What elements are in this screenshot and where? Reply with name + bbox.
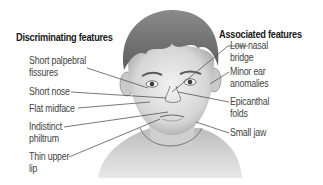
label-line: Flat midface (29, 103, 75, 115)
label-line: bridge (230, 52, 268, 64)
discriminating-features-heading: Discriminating features (16, 31, 113, 43)
label-indistinct-philtrum: Indistinct philtrum (29, 121, 62, 145)
label-line: Low nasal (230, 40, 268, 52)
label-line: lip (29, 163, 69, 175)
label-line: Thin upper (29, 151, 69, 163)
label-short-nose: Short nose (29, 86, 70, 98)
label-minor-ear-anomalies: Minor ear anomalies (230, 66, 269, 90)
label-line: Indistinct (29, 121, 62, 133)
label-short-palpebral-fissures: Short palpebral fissures (29, 55, 86, 79)
label-line: Small jaw (230, 127, 266, 139)
label-thin-upper-lip: Thin upper lip (29, 151, 69, 175)
label-low-nasal-bridge: Low nasal bridge (230, 40, 268, 64)
label-line: Short nose (29, 86, 70, 98)
label-epicanthal-folds: Epicanthal folds (230, 96, 269, 120)
face-shape (128, 45, 214, 135)
label-line: Epicanthal (230, 96, 269, 108)
label-line: philtrum (29, 133, 62, 145)
label-line: Minor ear (230, 66, 269, 78)
label-line: folds (230, 108, 269, 120)
label-line: Short palpebral (29, 55, 86, 67)
associated-features-heading: Associated features (219, 28, 302, 40)
label-flat-midface: Flat midface (29, 103, 75, 115)
label-line: anomalies (230, 78, 269, 90)
label-line: fissures (29, 67, 86, 79)
label-small-jaw: Small jaw (230, 127, 266, 139)
